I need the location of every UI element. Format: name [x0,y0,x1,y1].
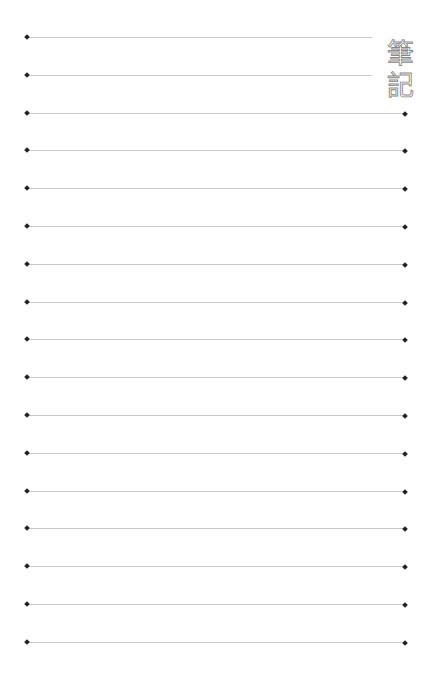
line-end-dot-icon [402,526,408,532]
title-char-1: 筆 [387,38,414,70]
ruled-line [27,188,405,189]
ruled-line [27,604,405,605]
line-start-dot-icon [24,72,30,78]
line-end-dot-icon [402,111,408,117]
line-start-dot-icon [24,336,30,342]
line-end-dot-icon [402,413,408,419]
line-end-dot-icon [402,451,408,457]
line-end-dot-icon [402,224,408,230]
line-end-dot-icon [402,337,408,343]
line-end-dot-icon [402,262,408,268]
line-end-dot-icon [402,489,408,495]
ruled-line [27,75,372,76]
line-end-dot-icon [402,148,408,154]
title-char-2: 記 [387,70,414,102]
line-start-dot-icon [24,147,30,153]
ruled-line [27,453,405,454]
line-start-dot-icon [24,223,30,229]
line-start-dot-icon [24,412,30,418]
ruled-line [27,377,405,378]
ruled-line [27,150,405,151]
ruled-line [27,491,405,492]
ruled-line [27,642,405,643]
line-start-dot-icon [24,525,30,531]
ruled-line [27,339,405,340]
ruled-line [27,37,372,38]
line-start-dot-icon [24,488,30,494]
line-end-dot-icon [402,564,408,570]
ruled-line [27,302,405,303]
ruled-line [27,113,405,114]
line-start-dot-icon [24,601,30,607]
line-start-dot-icon [24,34,30,40]
line-start-dot-icon [24,450,30,456]
line-end-dot-icon [402,640,408,646]
line-start-dot-icon [24,299,30,305]
line-start-dot-icon [24,639,30,645]
line-start-dot-icon [24,563,30,569]
ruled-line [27,264,405,265]
line-end-dot-icon [402,375,408,381]
line-end-dot-icon [402,602,408,608]
line-start-dot-icon [24,110,30,116]
page-title: 筆 記 [386,38,414,102]
line-end-dot-icon [402,186,408,192]
line-start-dot-icon [24,261,30,267]
line-start-dot-icon [24,185,30,191]
line-end-dot-icon [402,300,408,306]
ruled-line [27,528,405,529]
ruled-line [27,226,405,227]
line-start-dot-icon [24,374,30,380]
ruled-line [27,415,405,416]
ruled-line [27,566,405,567]
